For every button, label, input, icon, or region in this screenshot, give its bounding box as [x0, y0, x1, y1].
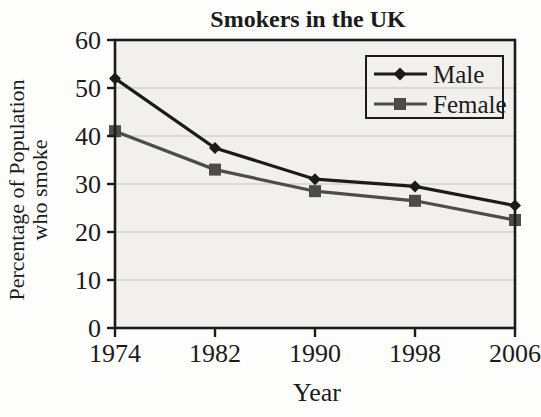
- y-tick-label-40: 40: [75, 122, 101, 151]
- chart-title: Smokers in the UK: [210, 6, 406, 32]
- y-tick-label-10: 10: [75, 266, 101, 295]
- x-tick-label-1982: 1982: [189, 339, 241, 368]
- y-tick-label-30: 30: [75, 170, 101, 199]
- y-tick-label-20: 20: [75, 218, 101, 247]
- legend-female-square-icon: [394, 98, 406, 110]
- y-tick-label-60: 60: [75, 26, 101, 55]
- x-tick-label-2006: 2006: [489, 339, 541, 368]
- marker-female-1982: [209, 164, 221, 176]
- x-tick-label-1974: 1974: [89, 339, 141, 368]
- chart-figure: 010203040506019741982199019982006 Smoker…: [0, 0, 541, 417]
- legend-label-female: Female: [433, 91, 507, 118]
- x-tick-label-1990: 1990: [289, 339, 341, 368]
- legend-label-male: Male: [433, 61, 484, 88]
- x-tick-label-1998: 1998: [389, 339, 441, 368]
- smokers-line-chart: 010203040506019741982199019982006 Smoker…: [0, 0, 541, 417]
- y-axis-title-line1: Percentage of Population: [4, 79, 29, 300]
- y-axis-title-line2: who smoke: [27, 140, 52, 241]
- y-tick-label-50: 50: [75, 74, 101, 103]
- x-axis-title: Year: [293, 378, 341, 407]
- marker-female-1990: [309, 185, 321, 197]
- marker-female-1998: [409, 195, 421, 207]
